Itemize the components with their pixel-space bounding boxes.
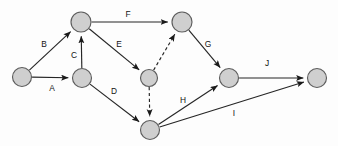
edge-label: I <box>233 108 235 118</box>
edge-label: D <box>111 86 117 96</box>
edge-label: J <box>265 58 269 68</box>
edges-layer <box>29 22 304 127</box>
edge-label: B <box>41 39 47 49</box>
graph-node[interactable] <box>220 69 239 88</box>
nodes-layer <box>13 12 327 140</box>
edge-label: C <box>71 50 77 60</box>
graph-node[interactable] <box>172 12 192 32</box>
graph-edge <box>89 29 139 70</box>
edge-label: G <box>205 39 212 49</box>
graph-node[interactable] <box>71 12 91 32</box>
graph-edge <box>154 34 175 70</box>
edge-label: E <box>116 39 122 49</box>
graph-edge <box>81 36 82 68</box>
graph-edge <box>29 32 70 70</box>
graph-node[interactable] <box>308 69 327 88</box>
graph-node[interactable] <box>73 69 92 88</box>
edge-label: A <box>49 83 55 93</box>
graph-svg: ABCDEFGHIJ <box>0 0 338 146</box>
graph-node[interactable] <box>13 68 32 87</box>
edge-label: H <box>180 95 186 105</box>
edge-label: F <box>125 9 130 19</box>
graph-node[interactable] <box>141 121 160 140</box>
graph-node[interactable] <box>141 70 158 87</box>
diagram-canvas: ABCDEFGHIJ <box>0 0 338 146</box>
graph-edge <box>32 77 68 78</box>
graph-edge <box>149 87 150 116</box>
